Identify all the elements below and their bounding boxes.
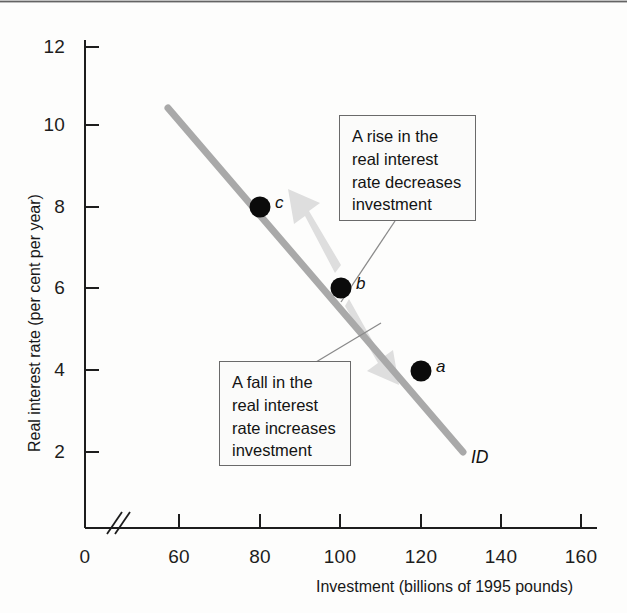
data-point-a: [411, 361, 432, 382]
x-origin-label: 0: [80, 546, 91, 568]
data-point-label-a: a: [436, 357, 445, 377]
y-tick-label-10: 10: [37, 114, 65, 136]
data-point-b: [331, 278, 352, 299]
x-tick-label-120: 120: [405, 546, 437, 568]
y-axis-ticks: [85, 47, 99, 452]
investment-demand-chart: 12 10 8 6 4 2 0 60 80 100 120 140 160 In…: [0, 0, 627, 613]
callout-fall: A fall in the real interest rate increas…: [219, 361, 351, 466]
x-tick-label-80: 80: [249, 546, 271, 568]
x-tick-label-60: 60: [168, 546, 190, 568]
x-axis-ticks: [179, 514, 581, 528]
y-tick-label-12: 12: [37, 36, 65, 58]
x-tick-label-100: 100: [324, 546, 356, 568]
data-point-c: [250, 197, 271, 218]
chart-canvas: [0, 0, 627, 613]
data-point-label-b: b: [356, 274, 365, 294]
y-axis-title: Real interest rate (per cent per year): [26, 194, 44, 452]
x-tick-label-160: 160: [565, 546, 597, 568]
x-tick-label-140: 140: [485, 546, 517, 568]
callout-rise: A rise in the real interest rate decreas…: [339, 115, 476, 221]
data-point-label-c: c: [275, 193, 284, 213]
curve-label-id: ID: [471, 447, 489, 468]
x-axis-title: Investment (billions of 1995 pounds): [316, 578, 573, 596]
axis-break-icon: [104, 512, 134, 534]
